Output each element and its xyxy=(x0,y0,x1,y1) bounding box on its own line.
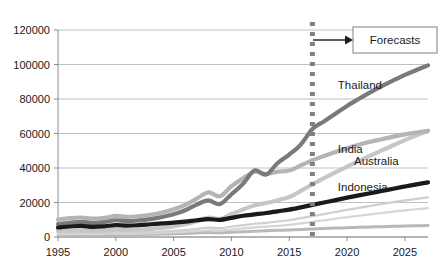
y-tick-label: 120000 xyxy=(13,24,50,36)
x-tick-label: 2005 xyxy=(161,246,185,258)
x-tick-label: 2015 xyxy=(277,246,301,258)
x-axis xyxy=(58,237,428,241)
series-label-australia: Australia xyxy=(354,155,399,167)
x-tick-label: 2010 xyxy=(219,246,243,258)
y-tick-label: 40000 xyxy=(19,162,50,174)
x-tick-label: 2020 xyxy=(335,246,359,258)
x-tick-label: 2025 xyxy=(393,246,417,258)
y-tick-label: 60000 xyxy=(19,128,50,140)
chart-canvas: 020000400006000080000100000120000 199520… xyxy=(0,0,441,274)
series-label-indonesia: Indonesia xyxy=(338,181,388,193)
x-tick-label: 2000 xyxy=(104,246,128,258)
line-chart: 020000400006000080000100000120000 199520… xyxy=(0,0,441,274)
y-tick-label: 80000 xyxy=(19,93,50,105)
forecasts-arrow-head xyxy=(345,36,353,45)
forecasts-callout: Forecasts xyxy=(313,27,437,53)
y-tick-label: 100000 xyxy=(13,59,50,71)
y-axis-tick-labels: 020000400006000080000100000120000 xyxy=(13,24,50,243)
series-label-india: India xyxy=(338,143,364,155)
data-series-group xyxy=(58,65,428,235)
y-tick-label: 0 xyxy=(44,231,50,243)
forecasts-label: Forecasts xyxy=(370,34,421,46)
y-tick-label: 20000 xyxy=(19,197,50,209)
x-axis-tick-labels: 1995200020052010201520202025 xyxy=(46,246,417,258)
x-tick-label: 1995 xyxy=(46,246,70,258)
series-label-thailand: Thailand xyxy=(338,79,382,91)
y-axis xyxy=(54,30,58,237)
